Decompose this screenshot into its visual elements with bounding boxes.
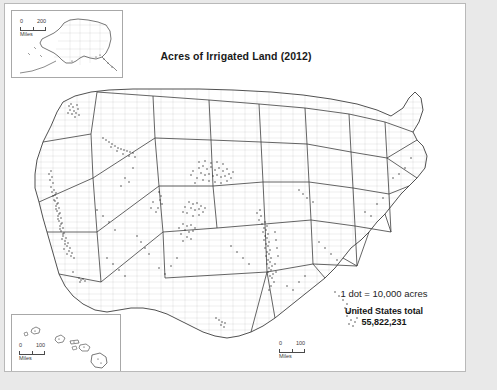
scale-bar-zero-label: 0 <box>279 341 282 347</box>
map-legend: 1 dot = 10,000 acres United States total… <box>305 288 463 327</box>
scale-bar-unit-label: Miles <box>19 356 53 362</box>
map-panel: Acres of Irrigated Land (2012) <box>4 3 466 372</box>
scale-bar-unit-label: Miles <box>20 32 54 38</box>
scale-bar-max-label: 100 <box>36 343 45 349</box>
scale-bar-alaska: 0 200 Miles <box>20 19 54 38</box>
scale-bar-graphic <box>20 27 46 31</box>
legend-total-label: United States total <box>305 306 463 316</box>
scale-bar-zero-label: 0 <box>20 19 23 25</box>
scale-bar-max-label: 100 <box>296 341 305 347</box>
alaska-inset: 0 200 Miles <box>11 10 123 78</box>
irrigated-land-map-figure: Acres of Irrigated Land (2012) <box>0 0 497 390</box>
scale-bar-graphic <box>279 349 305 353</box>
scale-bar-graphic <box>19 351 45 355</box>
hawaii-inset: 0 100 Miles <box>11 314 121 372</box>
legend-total-value: 55,822,231 <box>305 317 463 327</box>
scale-bar-max-label: 200 <box>37 19 46 25</box>
legend-dot-value: 1 dot = 10,000 acres <box>305 288 463 299</box>
scale-bar-hawaii: 0 100 Miles <box>19 343 53 362</box>
scale-bar-conus: 0 100 Miles <box>279 341 313 360</box>
scale-bar-unit-label: Miles <box>279 354 313 360</box>
alaska-borough-boundaries <box>54 19 110 65</box>
scale-bar-zero-label: 0 <box>19 343 22 349</box>
